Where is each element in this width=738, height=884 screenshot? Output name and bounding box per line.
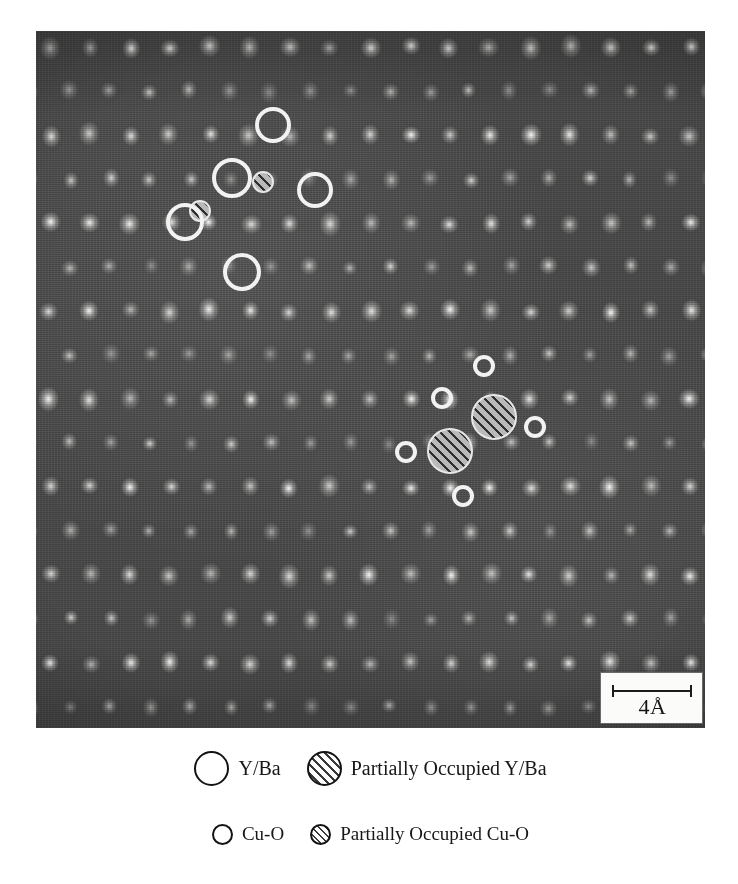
scale-bar-line	[612, 690, 692, 692]
marker-open-circle-small-6	[452, 485, 474, 507]
legend-item-cu-o: Cu-O	[212, 823, 284, 845]
marker-open-circle-large-1	[212, 158, 252, 198]
marker-open-circle-small-0	[473, 355, 495, 377]
marker-open-circle-large-3	[297, 172, 333, 208]
legend-label-partial-cu-o: Partially Occupied Cu-O	[340, 823, 529, 845]
legend-row-cu-o: Cu-O Partially Occupied Cu-O	[36, 808, 705, 860]
marker-hatched-circle-large-4	[427, 428, 473, 474]
legend: Y/Ba Partially Occupied Y/Ba Cu-O Partia…	[36, 742, 705, 860]
legend-label-cu-o: Cu-O	[242, 823, 284, 845]
hatched-circle-icon	[307, 751, 342, 786]
legend-item-partial-y-ba: Partially Occupied Y/Ba	[307, 751, 547, 786]
marker-open-circle-small-5	[395, 441, 417, 463]
small-hatched-circle-icon	[310, 824, 331, 845]
legend-row-y-ba: Y/Ba Partially Occupied Y/Ba	[36, 742, 705, 794]
marker-open-circle-small-1	[431, 387, 453, 409]
marker-open-circle-large-0	[255, 107, 291, 143]
marker-open-circle-large-5	[166, 203, 204, 241]
figure-page: 4Å Y/Ba Partially Occupied Y/Ba Cu-O Par…	[0, 0, 738, 884]
legend-label-y-ba: Y/Ba	[238, 757, 280, 779]
marker-open-circle-small-3	[524, 416, 546, 438]
hrtem-micrograph	[36, 31, 705, 728]
scale-bar-label: 4Å	[601, 695, 704, 719]
film-grain-overlay	[36, 31, 705, 728]
open-circle-icon	[194, 751, 229, 786]
scale-bar: 4Å	[600, 672, 703, 724]
marker-open-circle-large-6	[223, 253, 261, 291]
legend-item-partial-cu-o: Partially Occupied Cu-O	[310, 823, 529, 845]
marker-hatched-circle-small-2	[252, 171, 274, 193]
legend-label-partial-y-ba: Partially Occupied Y/Ba	[351, 757, 547, 779]
marker-hatched-circle-large-2	[471, 394, 517, 440]
legend-item-y-ba: Y/Ba	[194, 751, 280, 786]
small-open-circle-icon	[212, 824, 233, 845]
